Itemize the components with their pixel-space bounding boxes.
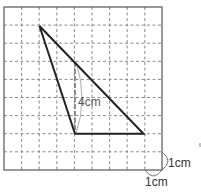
stray-mark	[200, 143, 201, 147]
height-label: 4cm	[78, 95, 101, 109]
triangle-grid-diagram: 4cm 1cm 1cm	[0, 0, 201, 196]
horizontal-unit-label: 1cm	[145, 175, 168, 189]
grid-lines	[4, 7, 162, 170]
grid-border	[4, 7, 162, 170]
vertical-unit-label: 1cm	[168, 156, 191, 170]
